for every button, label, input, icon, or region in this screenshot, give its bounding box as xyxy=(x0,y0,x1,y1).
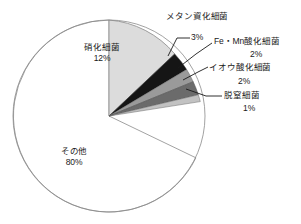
slice-label-methane-name-box: メタン資化細菌 xyxy=(166,11,228,22)
slice-label-sulfur-name: イオウ酸化細菌 xyxy=(209,62,271,73)
slice-label-others: その他 80% xyxy=(61,146,88,167)
slice-label-nitrifying: 硝化細菌 12% xyxy=(84,42,120,63)
slice-label-others-pct: 80% xyxy=(61,157,88,168)
slice-label-nitrifying-name: 硝化細菌 xyxy=(84,42,120,53)
slice-label-femn-name: Fe・Mn酸化細菌 xyxy=(214,36,280,47)
slice-label-denitrifying: 脱窒細菌 xyxy=(224,90,260,101)
slice-label-femn-pct: 2% xyxy=(250,49,262,59)
pie-chart-svg xyxy=(0,0,301,224)
slice-label-sulfur-pct: 2% xyxy=(238,76,250,86)
slice-label-methane-name: メタン資化細菌 xyxy=(166,11,228,22)
slice-label-sulfur: イオウ酸化細菌 xyxy=(209,62,271,73)
slice-label-nitrifying-pct: 12% xyxy=(84,53,120,64)
slice-label-denitrifying-name: 脱窒細菌 xyxy=(224,90,260,101)
slice-label-femn: Fe・Mn酸化細菌 xyxy=(214,36,280,47)
pie-chart-figure: 硝化細菌 12% その他 80% メタン資化細菌 3% Fe・Mn酸化細菌 2%… xyxy=(0,0,301,224)
slice-label-methane-pct: 3% xyxy=(191,32,203,42)
slice-label-denitrifying-pct: 1% xyxy=(243,103,255,113)
slice-label-others-name: その他 xyxy=(61,146,88,157)
